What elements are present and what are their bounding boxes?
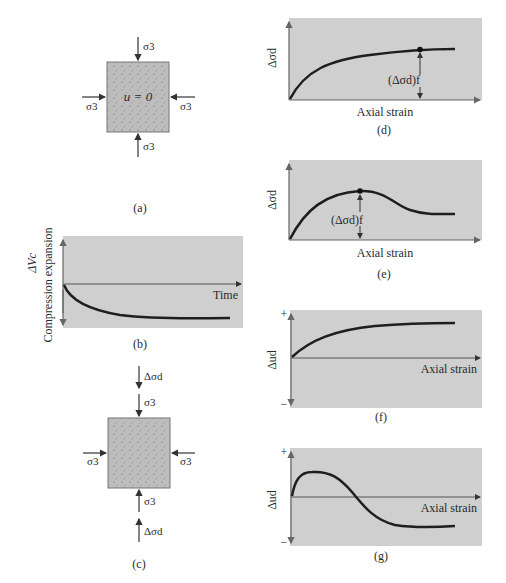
y-axis-label: Δσd (265, 48, 279, 68)
panel-b: Time ΔVc Compression expansion (b) (25, 228, 243, 352)
chart-b-background (63, 236, 243, 328)
plus-sign: + (281, 307, 288, 321)
y-axis-label: Δσd (265, 190, 279, 210)
soil-specimen-c (108, 418, 170, 488)
failure-annotation: (Δσd)f (331, 213, 363, 227)
panel-d: (Δσd)f Δσd Axial strain (d) (265, 18, 482, 137)
pore-pressure-label: u = 0 (124, 89, 153, 104)
panel-c: Δσd σ3 σ3 Δσd σ3 σ3 (c) (83, 366, 195, 571)
stress-left-c: σ3 (87, 455, 99, 467)
x-axis-label: Axial strain (357, 105, 413, 119)
minus-sign: − (281, 397, 288, 411)
failure-point (417, 47, 423, 53)
stress-bottom-inner: σ3 (144, 495, 156, 507)
panel-f: + − Δud Axial strain (f) (265, 307, 482, 424)
y-axis-label: ΔVc (25, 252, 39, 273)
stress-top-label: σ3 (143, 40, 155, 52)
caption-d: (d) (377, 123, 391, 137)
chart-e-background (289, 160, 482, 240)
figure-canvas: u = 0 σ3 σ3 σ3 σ3 (a) Time ΔVc Compressi… (0, 0, 506, 583)
failure-annotation: (Δσd)f (388, 73, 420, 87)
x-axis-label: Axial strain (421, 362, 477, 376)
stress-left-label: σ3 (86, 100, 98, 112)
y-axis-label: Δud (265, 490, 279, 510)
caption-c: (c) (132, 557, 145, 571)
y-axis-label: Δud (265, 350, 279, 370)
panel-g: + − Δud Axial strain (g) (265, 445, 482, 563)
stress-right-label: σ3 (180, 100, 192, 112)
caption-g: (g) (374, 549, 388, 563)
y-axis-sublabel: Compression expansion (41, 228, 55, 343)
stress-bottom-label: σ3 (143, 140, 155, 152)
x-axis-label: Time (213, 288, 238, 302)
chart-d-background (289, 18, 482, 100)
stress-top-inner: σ3 (144, 396, 156, 408)
x-axis-label: Axial strain (421, 501, 477, 515)
stress-right-c: σ3 (180, 455, 192, 467)
caption-e: (e) (377, 267, 390, 281)
plus-sign: + (281, 445, 288, 459)
panel-a: u = 0 σ3 σ3 σ3 σ3 (a) (82, 37, 195, 215)
caption-b: (b) (133, 337, 147, 351)
x-axis-label: Axial strain (357, 246, 413, 260)
caption-a: (a) (133, 201, 146, 215)
peak-point (357, 188, 363, 194)
stress-top-outer: Δσd (144, 370, 163, 382)
caption-f: (f) (375, 410, 387, 424)
stress-bottom-outer: Δσd (144, 525, 163, 537)
minus-sign: − (281, 535, 288, 549)
panel-e: (Δσd)f Δσd Axial strain (e) (265, 160, 482, 281)
